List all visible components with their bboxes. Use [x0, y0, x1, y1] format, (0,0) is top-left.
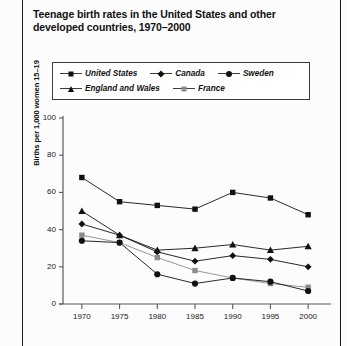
x-tick-label: 2000 — [291, 312, 325, 321]
plot-area: Births per 1,000 women 15–19 02040608010… — [33, 108, 333, 326]
y-tick-label: 80 — [33, 150, 56, 159]
chart-title: Teenage birth rates in the United States… — [33, 8, 323, 33]
data-point — [229, 241, 236, 248]
data-point — [78, 221, 85, 228]
triangle-marker-icon — [68, 86, 74, 92]
data-point — [230, 190, 235, 195]
data-point — [192, 268, 197, 273]
data-point — [155, 255, 160, 260]
legend-label: Canada — [175, 69, 205, 78]
y-tick-label: 40 — [33, 225, 56, 234]
data-point — [305, 212, 310, 217]
legend-label: United States — [85, 69, 137, 78]
data-point — [78, 207, 85, 214]
data-point — [155, 203, 160, 208]
legend-row-2: England and WalesFrance — [60, 82, 238, 95]
x-tick-label: 1995 — [253, 312, 287, 321]
series-england-and-wales — [82, 211, 308, 250]
x-tick-label: 1980 — [140, 312, 174, 321]
legend-row-1: United StatesCanadaSweden — [60, 67, 287, 80]
data-point — [79, 175, 84, 180]
data-point — [305, 263, 312, 270]
chart-page: Teenage birth rates in the United States… — [0, 0, 347, 346]
legend-item-england-and-wales[interactable]: England and Wales — [60, 84, 160, 93]
data-point — [229, 252, 236, 259]
data-point — [116, 240, 122, 246]
legend-item-sweden[interactable]: Sweden — [218, 69, 274, 78]
square-marker-icon — [69, 71, 74, 76]
data-point — [267, 256, 274, 263]
legend-label: Sweden — [243, 69, 274, 78]
data-point — [154, 271, 160, 277]
page-rule-right — [340, 0, 341, 346]
data-point — [267, 279, 273, 285]
page-rule-left — [22, 0, 23, 346]
data-point — [305, 243, 312, 250]
x-tick-label: 1975 — [103, 312, 137, 321]
data-point — [230, 275, 236, 281]
legend-item-canada[interactable]: Canada — [150, 69, 205, 78]
legend-swatch — [60, 69, 82, 78]
legend-swatch — [150, 69, 172, 78]
data-point — [192, 258, 199, 265]
x-tick-label: 1990 — [216, 312, 250, 321]
data-point — [79, 238, 85, 244]
y-tick-label: 100 — [33, 113, 56, 122]
legend-label: England and Wales — [85, 84, 160, 93]
legend-swatch — [173, 84, 195, 93]
legend-item-france[interactable]: France — [173, 84, 225, 93]
gsquare-marker-icon — [181, 86, 186, 91]
y-tick-label: 20 — [33, 262, 56, 271]
y-tick-label: 60 — [33, 187, 56, 196]
data-point — [192, 280, 198, 286]
data-point — [305, 288, 311, 294]
data-point — [192, 206, 197, 211]
legend-swatch — [218, 69, 240, 78]
diamond-marker-icon — [158, 70, 165, 77]
chart-legend: United StatesCanadaSweden England and Wa… — [52, 62, 310, 100]
legend-item-united-states[interactable]: United States — [60, 69, 137, 78]
circle-marker-icon — [226, 71, 232, 77]
legend-swatch — [60, 84, 82, 93]
x-tick-label: 1970 — [65, 312, 99, 321]
data-point — [79, 232, 84, 237]
data-point — [117, 199, 122, 204]
x-tick-label: 1985 — [178, 312, 212, 321]
legend-label: France — [198, 84, 225, 93]
y-tick-label: 0 — [33, 299, 56, 308]
data-point — [268, 195, 273, 200]
chart-canvas — [33, 108, 333, 326]
series-line — [82, 211, 308, 250]
